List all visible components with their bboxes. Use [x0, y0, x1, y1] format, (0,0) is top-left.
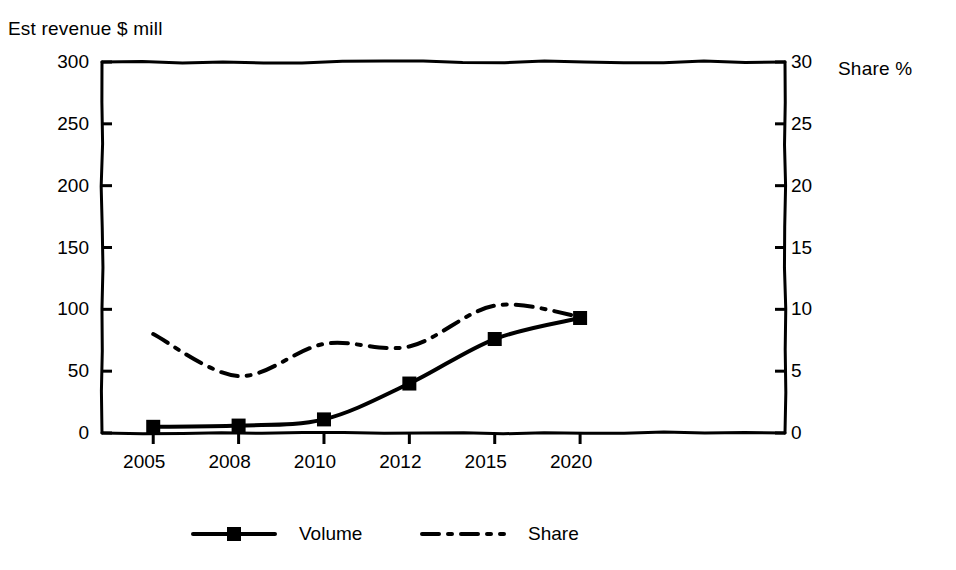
- y-tick-label-50: 50: [68, 360, 89, 382]
- y2-tick-label-0: 0: [791, 422, 802, 444]
- x-tick-label-2005: 2005: [123, 451, 165, 473]
- legend-label-share: Share: [528, 523, 579, 545]
- y-tick-label-300: 300: [57, 51, 89, 73]
- y2-tick-label-30: 30: [791, 51, 812, 73]
- y-tick-label-250: 250: [57, 113, 89, 135]
- y-tick-label-100: 100: [57, 298, 89, 320]
- x-tick-label-2020: 2020: [550, 451, 592, 473]
- x-tick-label-2008: 2008: [208, 451, 250, 473]
- series-line-share: [153, 305, 580, 377]
- y-tick-label-150: 150: [57, 237, 89, 259]
- series-line-volume: [153, 318, 580, 427]
- x-tick-label-2012: 2012: [379, 451, 421, 473]
- y-tick-label-200: 200: [57, 175, 89, 197]
- y2-tick-label-25: 25: [791, 113, 812, 135]
- x-tick-label-2010: 2010: [294, 451, 336, 473]
- y-tick-label-0: 0: [78, 422, 89, 444]
- x-tick-label-2015: 2015: [465, 451, 507, 473]
- axes-frame: [101, 61, 786, 434]
- y2-tick-label-5: 5: [791, 360, 802, 382]
- legend-label-volume: Volume: [299, 523, 362, 545]
- y2-tick-label-10: 10: [791, 298, 812, 320]
- chart-plot-area: [0, 0, 956, 570]
- y2-tick-label-20: 20: [791, 175, 812, 197]
- chart-figure: Est revenue $ mill Share % 2005200820102…: [0, 0, 956, 570]
- y2-tick-label-15: 15: [791, 237, 812, 259]
